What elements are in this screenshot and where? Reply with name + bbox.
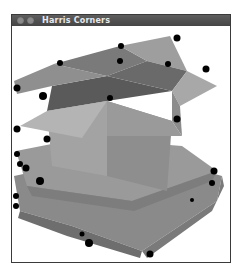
minimize-button[interactable] [27,17,34,24]
harris-corners-image [12,26,230,262]
window-title: Harris Corners [42,16,110,25]
close-button[interactable] [17,17,24,24]
title-bar[interactable]: Harris Corners [12,15,230,26]
image-window: Harris Corners [11,14,231,263]
